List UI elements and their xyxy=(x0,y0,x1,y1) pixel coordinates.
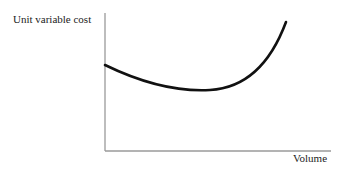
unit-variable-cost-chart: Unit variable cost Volume xyxy=(0,0,344,171)
chart-plot-area xyxy=(0,0,344,171)
cost-curve xyxy=(105,22,286,90)
